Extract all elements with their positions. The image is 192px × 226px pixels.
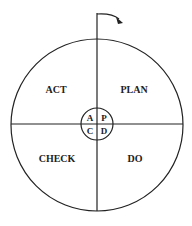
center-label-p: P	[101, 113, 107, 123]
center-label-c: C	[87, 126, 94, 136]
center-label-a: A	[87, 113, 94, 123]
quadrant-label-act: ACT	[45, 84, 66, 95]
quadrant-label-do: DO	[128, 153, 143, 164]
pdca-diagram: ACT PLAN CHECK DO A P C D	[0, 0, 192, 226]
center-label-d: D	[101, 126, 108, 136]
quadrant-label-check: CHECK	[39, 153, 76, 164]
rotation-arrow-icon	[97, 14, 123, 24]
quadrant-label-plan: PLAN	[120, 84, 148, 95]
